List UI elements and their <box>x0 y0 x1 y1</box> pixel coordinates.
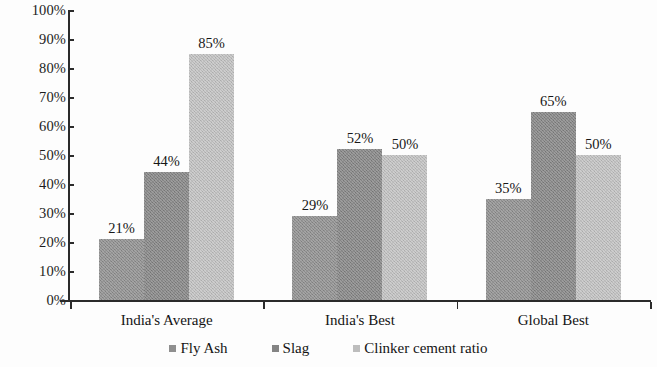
bar-value-label: 65% <box>525 94 581 109</box>
y-axis-tick-labels: 0%10%20%30%40%50%60%70%80%90%100% <box>0 0 66 367</box>
x-axis-category-label: India's Best <box>263 311 456 329</box>
legend-label: Fly Ash <box>180 340 227 356</box>
bar-group: 29%52%50% <box>263 10 456 302</box>
y-axis-tick-label: 20% <box>8 235 66 250</box>
legend-item[interactable]: Clinker cement ratio <box>353 340 487 356</box>
bar-value-label: 85% <box>184 36 240 51</box>
bar[interactable] <box>292 216 337 300</box>
x-axis-tick-mark <box>457 302 459 309</box>
bar[interactable] <box>189 54 234 301</box>
y-axis-tick-label: 10% <box>8 264 66 279</box>
bar-value-label: 44% <box>139 154 195 169</box>
bar-value-label: 29% <box>287 198 343 213</box>
bar-group: 35%65%50% <box>457 10 650 302</box>
legend-swatch-icon <box>353 345 360 352</box>
y-axis-tick-label: 50% <box>8 148 66 163</box>
x-axis-tick-mark <box>263 302 265 309</box>
y-axis-tick-label: 40% <box>8 177 66 192</box>
chart-legend: Fly AshSlagClinker cement ratio <box>0 340 657 356</box>
bar[interactable] <box>337 149 382 300</box>
legend-swatch-icon <box>272 345 279 352</box>
y-axis-tick-label: 100% <box>8 3 66 18</box>
bar[interactable] <box>576 155 621 300</box>
bar-group: 21%44%85% <box>70 10 263 302</box>
x-axis-tick-mark <box>650 302 652 309</box>
bar[interactable] <box>144 172 189 300</box>
bar-value-label: 50% <box>570 137 626 152</box>
bar[interactable] <box>99 239 144 300</box>
y-axis-tick-label: 70% <box>8 90 66 105</box>
y-axis-tick-label: 0% <box>8 293 66 308</box>
x-axis-category-label: Global Best <box>457 311 650 329</box>
bar-value-label: 21% <box>94 221 150 236</box>
x-axis-tick-mark <box>70 302 72 309</box>
bar[interactable] <box>486 199 531 301</box>
legend-label: Slag <box>283 340 310 356</box>
bar[interactable] <box>531 112 576 301</box>
bar-value-label: 35% <box>480 181 536 196</box>
legend-swatch-icon <box>169 345 176 352</box>
bar[interactable] <box>382 155 427 300</box>
bar-groups: 21%44%85%29%52%50%35%65%50% <box>70 10 650 302</box>
x-axis-category-label: India's Average <box>70 311 263 329</box>
y-axis-tick-label: 30% <box>8 206 66 221</box>
y-axis-tick-label: 90% <box>8 32 66 47</box>
y-axis-tick-label: 80% <box>8 61 66 76</box>
y-axis-tick-label: 60% <box>8 119 66 134</box>
legend-label: Clinker cement ratio <box>364 340 487 356</box>
legend-item[interactable]: Slag <box>272 340 310 356</box>
bar-value-label: 50% <box>377 137 433 152</box>
legend-item[interactable]: Fly Ash <box>169 340 227 356</box>
bar-chart: 0%10%20%30%40%50%60%70%80%90%100% 21%44%… <box>0 0 657 367</box>
